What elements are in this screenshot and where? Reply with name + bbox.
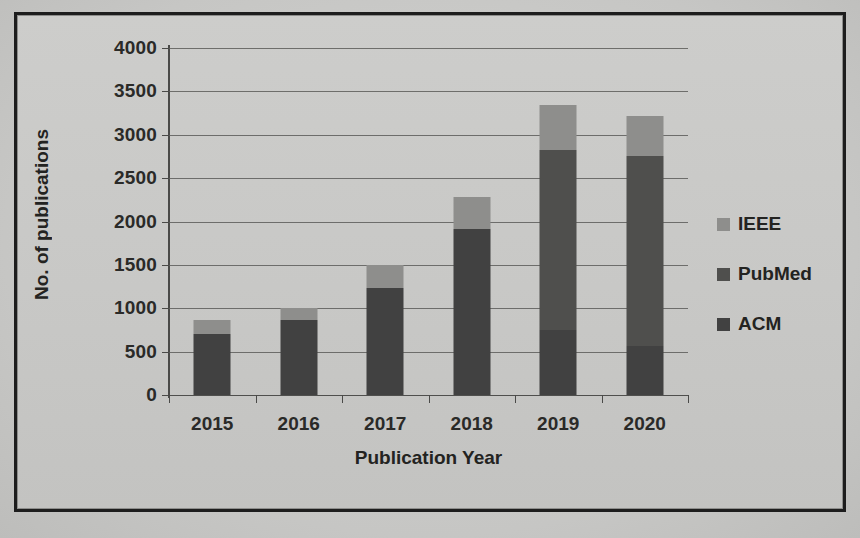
bar-segment-ieee xyxy=(194,320,231,335)
stacked-bar xyxy=(280,308,317,395)
y-axis-tick-mark xyxy=(162,222,169,223)
gridline xyxy=(169,135,688,136)
gridline xyxy=(169,265,688,266)
bar-segment-ieee xyxy=(367,265,404,288)
legend-label: IEEE xyxy=(738,213,781,235)
gridline xyxy=(169,308,688,309)
stacked-bar xyxy=(194,320,231,395)
bar-segment-ieee xyxy=(626,116,663,156)
y-axis-tick-mark xyxy=(162,135,169,136)
y-axis-tick-mark xyxy=(162,308,169,309)
x-axis-title: Publication Year xyxy=(169,447,688,469)
x-axis-tick-label: 2019 xyxy=(537,413,579,435)
y-axis-title: No. of publications xyxy=(27,65,57,365)
x-axis-tick-label: 2015 xyxy=(191,413,233,435)
y-axis-tick-label: 1000 xyxy=(114,297,157,319)
plot-area: 05001000150020002500300035004000 2015201… xyxy=(169,48,688,395)
stacked-bar xyxy=(540,105,577,395)
y-axis-tick-label: 2500 xyxy=(114,167,157,189)
bar-segment-acm xyxy=(367,288,404,395)
gridline xyxy=(169,178,688,179)
gridline xyxy=(169,222,688,223)
bar-segment-acm xyxy=(453,229,490,395)
x-axis-tick-mark xyxy=(342,395,343,403)
legend-item-acm: ACM xyxy=(717,313,812,335)
chart-frame: No. of publications 05001000150020002500… xyxy=(14,12,846,512)
x-axis-tick-label: 2018 xyxy=(451,413,493,435)
y-axis-tick-label: 3000 xyxy=(114,124,157,146)
legend-item-ieee: IEEE xyxy=(717,213,812,235)
y-axis-tick-mark xyxy=(162,91,169,92)
y-axis-tick-label: 0 xyxy=(146,384,157,406)
x-axis-tick-label: 2016 xyxy=(278,413,320,435)
legend-label: PubMed xyxy=(738,263,812,285)
y-axis-tick-mark xyxy=(162,395,169,396)
gridline xyxy=(169,352,688,353)
y-axis-tick-mark xyxy=(162,352,169,353)
y-axis-tick-label: 4000 xyxy=(114,37,157,59)
gridline xyxy=(169,91,688,92)
x-axis-tick-mark xyxy=(169,395,170,403)
y-axis-tick-label: 1500 xyxy=(114,254,157,276)
bar-segment-ieee xyxy=(540,105,577,150)
gridline xyxy=(169,48,688,49)
legend-swatch-ieee xyxy=(717,218,730,231)
y-axis-tick-mark xyxy=(162,265,169,266)
x-axis-tick-mark xyxy=(256,395,257,403)
y-axis-tick-mark xyxy=(162,48,169,49)
stacked-bar xyxy=(453,197,490,395)
x-axis-tick-mark xyxy=(688,395,689,403)
x-axis-tick-mark xyxy=(602,395,603,403)
y-axis-tick-mark xyxy=(162,178,169,179)
stacked-bar xyxy=(626,116,663,395)
bar-segment-acm xyxy=(194,334,231,395)
chart-legend: IEEEPubMedACM xyxy=(717,213,812,335)
stacked-bar xyxy=(367,265,404,395)
bar-segment-acm xyxy=(280,320,317,395)
y-axis-tick-label: 2000 xyxy=(114,211,157,233)
bar-segment-acm xyxy=(540,330,577,395)
legend-item-pubmed: PubMed xyxy=(717,263,812,285)
x-axis-tick-mark xyxy=(429,395,430,403)
x-axis-tick-mark xyxy=(515,395,516,403)
bar-segment-acm xyxy=(626,346,663,395)
bar-segment-ieee xyxy=(453,197,490,229)
legend-swatch-pubmed xyxy=(717,268,730,281)
legend-label: ACM xyxy=(738,313,781,335)
legend-swatch-acm xyxy=(717,318,730,331)
y-axis-tick-label: 3500 xyxy=(114,80,157,102)
bar-segment-ieee xyxy=(280,308,317,319)
x-axis-tick-label: 2020 xyxy=(624,413,666,435)
bar-segment-pubmed xyxy=(540,150,577,330)
y-axis-tick-label: 500 xyxy=(125,341,157,363)
x-axis-tick-label: 2017 xyxy=(364,413,406,435)
figure-page: No. of publications 05001000150020002500… xyxy=(0,0,860,538)
bar-segment-pubmed xyxy=(626,156,663,346)
